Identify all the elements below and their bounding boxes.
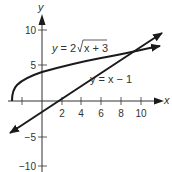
y-tick-label: −10 <box>19 161 36 172</box>
x-axis-label: x <box>163 94 170 106</box>
x-axis: 2 4 6 8 10 x <box>8 94 170 119</box>
x-tick-label: 10 <box>135 108 147 119</box>
graph: 2 4 6 8 10 x 10 5 −5 −10 y y = 2 x + 3 y… <box>0 0 172 172</box>
curve-radicand: x + 3 <box>84 42 108 54</box>
x-tick-label: 4 <box>78 108 84 119</box>
y-tick-label: 5 <box>30 60 36 71</box>
curve-equation-label: y = 2 x + 3 <box>51 40 108 54</box>
y-axis-label: y <box>37 1 45 13</box>
line-equation-label: y = x − 1 <box>90 73 132 85</box>
x-tick-label: 2 <box>59 108 65 119</box>
y-tick-label: 10 <box>25 25 37 36</box>
x-tick-label: 8 <box>118 108 124 119</box>
x-tick-label: 6 <box>98 108 104 119</box>
y-axis: 10 5 −5 −10 y <box>19 1 47 172</box>
sqrt-curve <box>12 46 160 101</box>
svg-text:y = 2: y = 2 <box>51 42 76 54</box>
y-tick-label: −5 <box>25 132 37 143</box>
y-axis-arrow-icon <box>39 14 46 25</box>
x-axis-arrow-icon <box>154 98 164 105</box>
